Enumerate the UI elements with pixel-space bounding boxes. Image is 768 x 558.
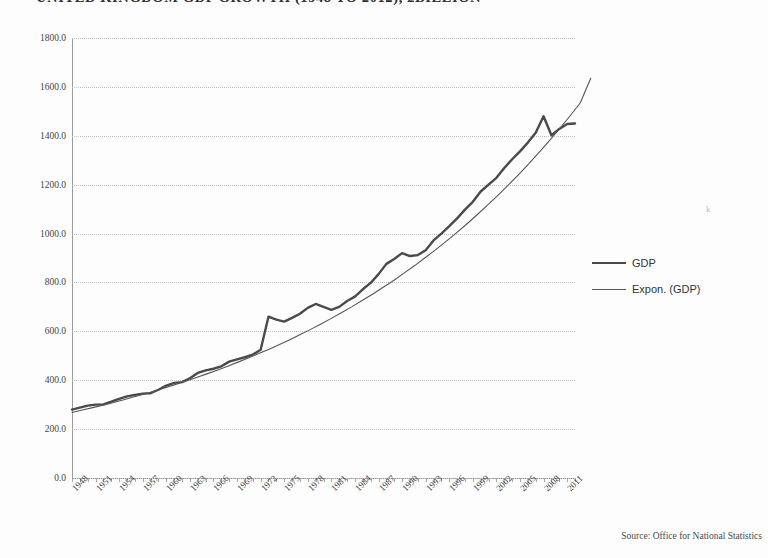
gridline-y: [72, 282, 575, 283]
legend-item[interactable]: Expon. (GDP): [592, 276, 752, 302]
y-axis-tick-label: 1400.0: [4, 131, 66, 141]
x-axis-tick-mark: [96, 478, 97, 482]
x-axis-tick-mark: [143, 478, 144, 482]
x-axis-tick-mark: [426, 478, 427, 482]
y-axis-tick-label: 600.0: [4, 326, 66, 336]
gridline-y: [72, 185, 575, 186]
y-axis-tick-label: 1200.0: [4, 180, 66, 190]
gridline-y: [72, 380, 575, 381]
legend-swatch-icon: [592, 262, 626, 264]
gridline-y: [72, 331, 575, 332]
x-axis-tick-mark: [544, 478, 545, 482]
y-axis-tick-label: 1800.0: [4, 33, 66, 43]
legend-item[interactable]: GDP: [592, 250, 752, 276]
legend-label: GDP: [632, 257, 656, 269]
y-axis-tick-label: 800.0: [4, 277, 66, 287]
gridline-y: [72, 136, 575, 137]
y-axis-tick-label: 0.0: [4, 473, 66, 483]
plot-area: [72, 38, 575, 478]
gridline-y: [72, 429, 575, 430]
gridline-y: [72, 38, 575, 39]
scan-artifact: k: [706, 204, 713, 213]
x-axis-tick-mark: [379, 478, 380, 482]
chart-legend: GDPExpon. (GDP): [592, 250, 752, 302]
x-axis-tick-mark: [261, 478, 262, 482]
legend-swatch-icon: [592, 289, 626, 290]
page-title: UNITED KINGDOM GDP GROWTH (1948 TO 2012)…: [36, 0, 536, 5]
legend-label: Expon. (GDP): [632, 283, 700, 295]
gridline-y: [72, 234, 575, 235]
source-note: Source: Office for National Statistics: [621, 531, 762, 541]
y-axis-tick-label: 400.0: [4, 375, 66, 385]
chart-page: UNITED KINGDOM GDP GROWTH (1948 TO 2012)…: [0, 0, 768, 558]
y-axis-tick-label: 200.0: [4, 424, 66, 434]
y-axis-tick-label: 1000.0: [4, 229, 66, 239]
y-axis-tick-label: 1600.0: [4, 82, 66, 92]
gridline-y: [72, 87, 575, 88]
